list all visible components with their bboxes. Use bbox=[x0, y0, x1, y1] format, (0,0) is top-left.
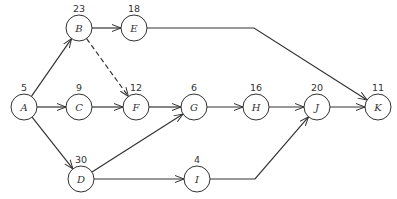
node-label: H bbox=[251, 102, 261, 113]
node-g: G6 bbox=[181, 82, 207, 120]
node-duration: 30 bbox=[75, 154, 87, 165]
node-duration: 9 bbox=[76, 82, 82, 93]
node-label: A bbox=[19, 102, 27, 113]
node-a: A5 bbox=[11, 82, 37, 120]
node-label: B bbox=[74, 23, 82, 34]
node-duration: 6 bbox=[191, 82, 197, 93]
node-label: D bbox=[76, 174, 85, 185]
node-c: C9 bbox=[66, 82, 92, 120]
node-duration: 20 bbox=[311, 82, 323, 93]
edge-i-j bbox=[210, 117, 309, 179]
node-duration: 5 bbox=[21, 82, 27, 93]
node-duration: 12 bbox=[130, 82, 142, 93]
node-i: I4 bbox=[184, 154, 210, 192]
node-d: D30 bbox=[68, 154, 94, 192]
node-duration: 16 bbox=[250, 82, 262, 93]
edge-a-d bbox=[32, 117, 73, 169]
node-duration: 18 bbox=[128, 3, 140, 14]
node-j: J20 bbox=[304, 82, 330, 120]
node-e: E18 bbox=[121, 3, 147, 41]
node-h: H16 bbox=[243, 82, 269, 120]
activity-network-diagram: A5B23C9D30E18F12G6H16I4J20K11 bbox=[0, 0, 397, 199]
node-duration: 23 bbox=[73, 3, 85, 14]
node-label: C bbox=[75, 102, 83, 113]
node-label: E bbox=[129, 23, 138, 34]
nodes-layer: A5B23C9D30E18F12G6H16I4J20K11 bbox=[11, 3, 391, 192]
node-duration: 11 bbox=[372, 82, 384, 93]
node-label: K bbox=[373, 102, 382, 113]
node-b: B23 bbox=[66, 3, 92, 41]
node-f: F12 bbox=[123, 82, 149, 120]
node-k: K11 bbox=[365, 82, 391, 120]
edge-d-g bbox=[92, 114, 183, 172]
edge-b-f bbox=[87, 39, 129, 97]
node-label: J bbox=[313, 102, 320, 113]
node-label: G bbox=[190, 102, 198, 113]
edge-a-b bbox=[31, 39, 71, 97]
node-label: F bbox=[132, 102, 141, 113]
node-duration: 4 bbox=[194, 154, 200, 165]
